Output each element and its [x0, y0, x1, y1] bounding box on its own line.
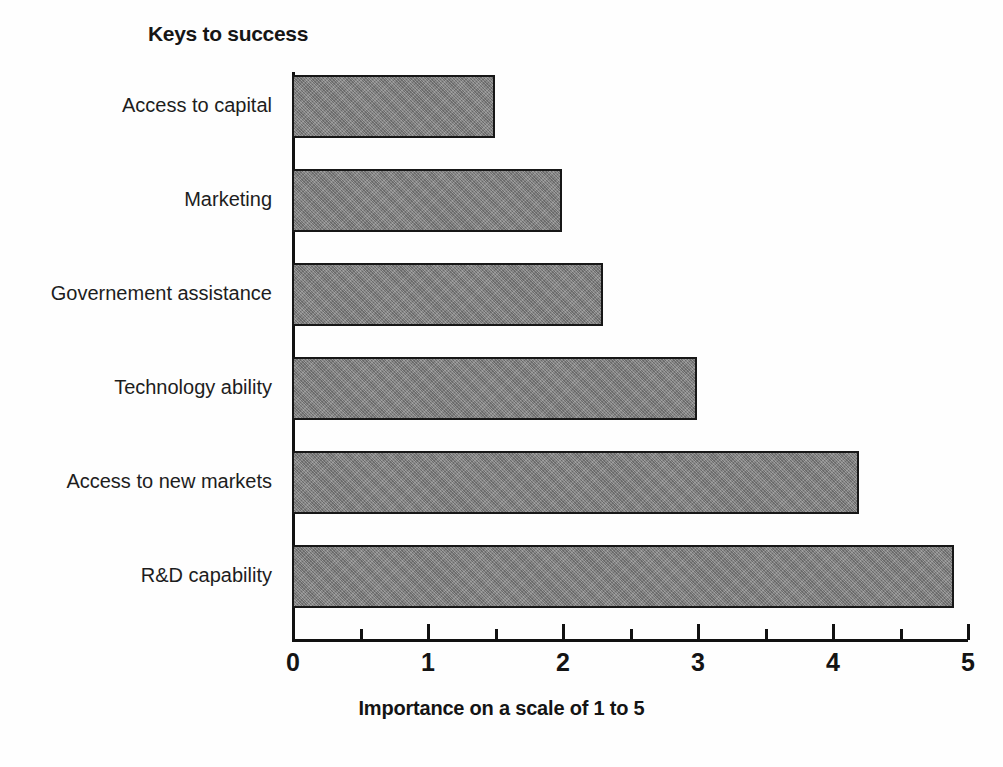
bar: [292, 451, 859, 514]
x-tick-label: 2: [533, 648, 593, 677]
x-tick-label: 3: [668, 648, 728, 677]
x-tick-label: 5: [938, 648, 998, 677]
x-tick-major: [292, 624, 295, 640]
bar: [292, 263, 603, 326]
chart-title: Keys to success: [148, 22, 308, 46]
x-tick-label: 4: [803, 648, 863, 677]
category-label: Marketing: [0, 188, 272, 211]
x-tick-major: [832, 624, 835, 640]
x-tick-major: [697, 624, 700, 640]
category-label: Access to new markets: [0, 470, 272, 493]
bar: [292, 357, 697, 420]
category-label: Technology ability: [0, 376, 272, 399]
bar-chart: Keys to success Access to capitalMarketi…: [0, 0, 1003, 767]
x-axis-title: Importance on a scale of 1 to 5: [0, 697, 1003, 720]
x-tick-label: 1: [398, 648, 458, 677]
x-tick-minor: [765, 629, 768, 640]
bar: [292, 169, 562, 232]
x-tick-minor: [495, 629, 498, 640]
x-tick-major: [427, 624, 430, 640]
x-tick-major: [562, 624, 565, 640]
x-tick-minor: [900, 629, 903, 640]
x-tick-major: [967, 624, 970, 640]
category-label: R&D capability: [0, 564, 272, 587]
bar: [292, 545, 954, 608]
category-label: Access to capital: [0, 94, 272, 117]
x-tick-minor: [360, 629, 363, 640]
x-tick-minor: [630, 629, 633, 640]
bar: [292, 75, 495, 138]
x-tick-label: 0: [263, 648, 323, 677]
category-label: Governement assistance: [0, 282, 272, 305]
